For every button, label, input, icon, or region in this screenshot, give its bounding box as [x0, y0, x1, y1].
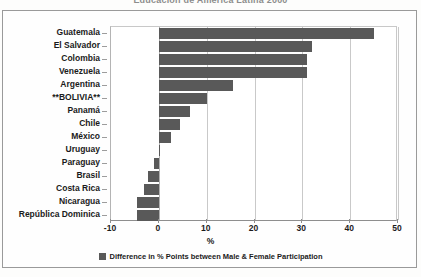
- x-axis-tick: [254, 219, 255, 223]
- bar: [137, 197, 159, 208]
- legend-swatch-icon: [99, 253, 106, 260]
- bar: [137, 210, 159, 221]
- y-axis-tick: [102, 150, 107, 151]
- y-axis-tick-label: Brasil: [76, 169, 100, 182]
- y-axis-tick-label: República Dominica: [19, 208, 100, 221]
- x-axis-tick: [349, 219, 350, 223]
- bar-rows: [111, 27, 396, 220]
- y-axis-tick-label: Venezuela: [59, 65, 100, 78]
- bar-row: [111, 105, 396, 118]
- bar: [159, 93, 207, 104]
- chart-legend: Difference in % Points between Male & Fe…: [3, 252, 418, 261]
- legend-label: Difference in % Points between Male & Fe…: [110, 252, 323, 261]
- bar: [144, 184, 158, 195]
- y-axis-tick-label: Argentina: [60, 78, 100, 91]
- y-axis-tick-label: Panamá: [67, 104, 100, 117]
- bar: [159, 80, 233, 91]
- bar: [148, 171, 159, 182]
- bar-row: [111, 118, 396, 131]
- y-axis-tick: [102, 202, 107, 203]
- x-axis-tick-label: 20: [249, 223, 258, 233]
- chart-screenshot: Educación de América Latina 2000 Guatema…: [0, 0, 421, 277]
- x-axis-tick-label: 10: [201, 223, 210, 233]
- y-axis-tick: [102, 189, 107, 190]
- bar: [159, 145, 160, 156]
- x-axis-tick-label: 30: [297, 223, 306, 233]
- y-axis-tick: [102, 85, 107, 86]
- y-axis-tick: [102, 124, 107, 125]
- y-axis-tick-label: Costa Rica: [56, 182, 100, 195]
- x-axis-tick: [397, 219, 398, 223]
- x-axis-tick: [206, 219, 207, 223]
- x-axis-tick-label: 50: [392, 223, 401, 233]
- y-axis-tick-label: Nicaragua: [59, 195, 100, 208]
- plot-area: [110, 26, 397, 221]
- bar: [159, 67, 307, 78]
- bar-row: [111, 170, 396, 183]
- bar: [159, 28, 374, 39]
- y-axis-tick: [102, 163, 107, 164]
- y-axis-tick: [102, 137, 107, 138]
- y-axis-tick-label: El Salvador: [54, 39, 100, 52]
- bar: [159, 132, 171, 143]
- bar-row: [111, 183, 396, 196]
- bar-row: [111, 27, 396, 40]
- y-axis-tick: [102, 176, 107, 177]
- page-title: Educación de América Latina 2000: [0, 0, 421, 5]
- bar-row: [111, 92, 396, 105]
- x-axis-tick: [301, 219, 302, 223]
- bar: [159, 106, 190, 117]
- gridline-50: [398, 27, 399, 220]
- chart-title-strip: Educación de América Latina 2000: [0, 0, 421, 10]
- y-axis-tick-label: Colombia: [61, 52, 100, 65]
- y-axis-tick: [102, 98, 107, 99]
- bar-row: [111, 40, 396, 53]
- bar: [159, 119, 181, 130]
- x-axis-title: %: [3, 236, 418, 246]
- y-axis-tick: [102, 111, 107, 112]
- y-axis-tick-label: Uruguay: [66, 143, 100, 156]
- bar-row: [111, 79, 396, 92]
- bar: [154, 158, 159, 169]
- bar: [159, 54, 307, 65]
- y-axis-tick-label: Guatemala: [57, 26, 100, 39]
- y-axis-tick-label: Chile: [79, 117, 100, 130]
- y-axis-tick-label: México: [71, 130, 100, 143]
- y-axis-tick: [102, 33, 107, 34]
- bar-row: [111, 157, 396, 170]
- bar-row: [111, 196, 396, 209]
- y-axis-tick: [102, 59, 107, 60]
- x-axis-tick: [158, 219, 159, 223]
- y-axis-tick-label: **BOLIVIA**: [52, 91, 100, 104]
- x-axis-tick: [110, 219, 111, 223]
- y-axis-labels: GuatemalaEl SalvadorColombiaVenezuelaArg…: [3, 26, 107, 221]
- y-axis-tick: [102, 46, 107, 47]
- bar-row: [111, 66, 396, 79]
- y-axis-tick: [102, 215, 107, 216]
- bar-row: [111, 144, 396, 157]
- bar-row: [111, 53, 396, 66]
- x-axis-tick-label: 40: [344, 223, 353, 233]
- bar-row: [111, 131, 396, 144]
- bar: [159, 41, 312, 52]
- x-axis-tick-label: 0: [155, 223, 160, 233]
- y-axis-tick-label: Paraguay: [62, 156, 100, 169]
- x-axis-tick-label: -10: [104, 223, 116, 233]
- chart-frame: GuatemalaEl SalvadorColombiaVenezuelaArg…: [2, 10, 417, 268]
- y-axis-tick: [102, 72, 107, 73]
